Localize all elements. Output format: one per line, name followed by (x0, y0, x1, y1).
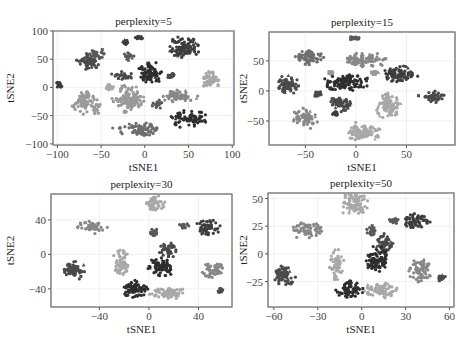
data-point (125, 284, 128, 287)
data-point (292, 119, 295, 122)
data-point (426, 264, 429, 267)
data-point (345, 288, 348, 291)
data-point (177, 292, 180, 295)
data-point (124, 267, 127, 270)
data-point (384, 102, 387, 105)
data-point (169, 265, 172, 268)
data-point (330, 97, 333, 100)
data-point (140, 101, 143, 104)
data-point (218, 224, 221, 227)
data-point (277, 282, 280, 285)
data-point (346, 281, 349, 284)
data-point (348, 199, 351, 202)
data-point (184, 99, 187, 102)
data-point (296, 111, 299, 114)
data-point (90, 222, 93, 225)
data-point (429, 220, 432, 223)
data-point (131, 126, 134, 129)
data-point (160, 200, 163, 203)
data-point (386, 105, 389, 108)
data-point (171, 74, 174, 77)
data-point (157, 194, 160, 197)
data-point (362, 86, 365, 89)
data-point (277, 86, 280, 89)
data-point (211, 276, 214, 279)
data-point (308, 236, 311, 239)
data-point (56, 85, 59, 88)
data-point (305, 114, 308, 117)
data-point (355, 282, 358, 285)
data-point (207, 268, 210, 271)
y-tick-label: 0 (258, 248, 264, 260)
data-point (156, 207, 159, 210)
data-point (76, 265, 79, 268)
x-tick-label: 50 (401, 148, 413, 160)
data-point (339, 291, 342, 294)
data-point (205, 225, 208, 228)
data-point (183, 50, 186, 53)
data-point (312, 122, 315, 125)
data-point (337, 101, 340, 104)
data-point (428, 97, 431, 100)
data-point (169, 273, 172, 276)
data-point (128, 122, 131, 125)
data-point (286, 83, 289, 86)
data-point (123, 73, 126, 76)
data-point (218, 270, 221, 273)
data-point (119, 259, 122, 262)
data-point (361, 54, 364, 57)
data-point (204, 113, 207, 116)
data-point (417, 280, 420, 283)
data-point (123, 84, 126, 87)
data-point (97, 223, 100, 226)
y-tick-label: 50 (253, 55, 265, 67)
data-point (189, 45, 192, 48)
data-point (426, 268, 429, 271)
data-point (385, 287, 388, 290)
data-point (417, 94, 420, 97)
data-point (157, 295, 160, 298)
y-axis-label: tSNE2 (4, 236, 16, 265)
data-point (211, 71, 214, 74)
data-point (126, 41, 129, 44)
data-point (282, 275, 285, 278)
data-point (354, 121, 357, 124)
data-point (158, 99, 161, 102)
data-point (127, 57, 130, 60)
data-point (205, 72, 208, 75)
data-point (193, 123, 196, 126)
data-point (331, 103, 334, 106)
data-point (412, 218, 415, 221)
data-point (181, 291, 184, 294)
data-point (179, 289, 182, 292)
data-point (277, 279, 280, 282)
data-point (402, 64, 405, 67)
x-tick-label: −60 (265, 310, 283, 322)
data-point (381, 116, 384, 119)
data-point (169, 244, 172, 247)
data-point (80, 91, 83, 94)
data-point (111, 97, 114, 100)
data-point (92, 108, 95, 111)
data-point (310, 115, 313, 118)
data-point (309, 127, 312, 130)
scatter-panel-1: −100−50050100100500−50−100perplexity=5tS… (4, 15, 241, 173)
data-point (382, 106, 385, 109)
data-point (168, 45, 171, 48)
data-point (119, 126, 122, 129)
data-point (158, 72, 161, 75)
y-tick-label: −40 (29, 283, 47, 295)
data-point (204, 263, 207, 266)
data-point (441, 97, 444, 100)
data-point (412, 271, 415, 274)
data-point (117, 264, 120, 267)
data-point (204, 274, 207, 277)
data-point (122, 249, 125, 252)
panel-title: perplexity=50 (330, 177, 392, 189)
data-point (420, 215, 423, 218)
data-point (373, 229, 376, 232)
data-point (349, 137, 352, 140)
data-point (354, 125, 357, 128)
data-point (90, 63, 93, 66)
data-point (100, 226, 103, 229)
